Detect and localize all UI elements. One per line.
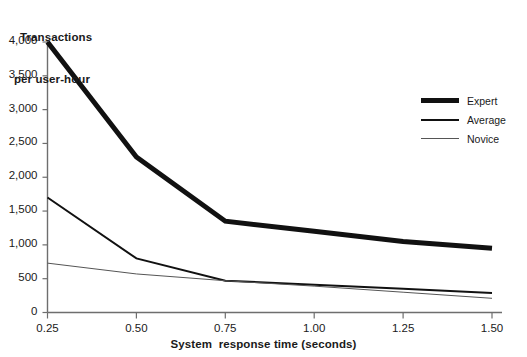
x-tick-label: 1.25 <box>378 322 428 334</box>
legend-item-novice: Novice <box>420 129 524 148</box>
x-tick-label: 1.00 <box>289 322 339 334</box>
legend-line-novice-icon <box>420 138 460 139</box>
x-axis-title: System response time (seconds) <box>0 338 527 350</box>
x-tick-label: 0.75 <box>200 322 250 334</box>
legend-item-average: Average <box>420 110 524 129</box>
y-tick-label: 0 <box>0 305 38 317</box>
legend-label-novice: Novice <box>467 133 499 145</box>
legend-line-expert-icon <box>420 98 460 103</box>
y-axis-title: Transactions per user-hour <box>14 2 92 114</box>
y-tick-label: 2,000 <box>0 169 38 181</box>
series-lines <box>48 42 493 298</box>
y-tick-label: 3,000 <box>0 102 38 114</box>
legend-label-expert: Expert <box>467 95 497 107</box>
y-tick-label: 1,000 <box>0 237 38 249</box>
legend-item-expert: Expert <box>420 91 524 110</box>
tick-marks <box>43 42 493 319</box>
x-tick-label: 0.25 <box>23 322 73 334</box>
y-tick-label: 1,500 <box>0 203 38 215</box>
y-tick-label: 4,000 <box>0 34 38 46</box>
chart-figure: Transactions per user-hour 05001,0001,50… <box>0 0 527 357</box>
chart-legend: Expert Average Novice <box>420 91 524 148</box>
y-tick-label: 2,500 <box>0 135 38 147</box>
x-tick-label: 0.50 <box>111 322 161 334</box>
y-tick-label: 500 <box>0 271 38 283</box>
legend-label-average: Average <box>467 114 506 126</box>
x-tick-label: 1.50 <box>467 322 517 334</box>
y-tick-label: 3,500 <box>0 68 38 80</box>
series-line-novice <box>48 263 493 298</box>
legend-line-average-icon <box>420 119 460 121</box>
